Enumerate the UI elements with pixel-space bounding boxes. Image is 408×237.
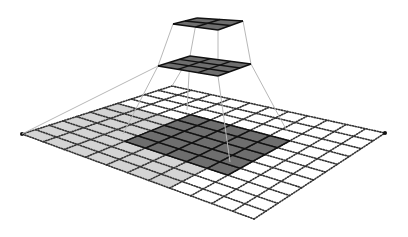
convolution-receptive-field-diagram: Receptive field of stacked convolution l… xyxy=(0,0,408,237)
corner-marker xyxy=(383,131,387,135)
